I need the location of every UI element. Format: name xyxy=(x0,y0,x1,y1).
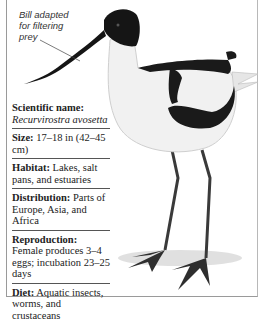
fact-diet: Diet: Aquatic insects, worms, and crusta… xyxy=(12,284,110,323)
fact-box: Scientific name: Recurvirostra avosetta … xyxy=(12,99,110,323)
fact-key: Reproduction: xyxy=(12,234,77,245)
fact-scientific-name: Scientific name: Recurvirostra avosetta xyxy=(12,99,110,129)
bill-callout-label: Bill adapted for filtering prey xyxy=(19,9,79,42)
fact-key: Size: xyxy=(12,132,34,143)
fact-value: Female produces 3–4 eggs; incubation 23–… xyxy=(12,245,110,279)
fact-key: Habitat: xyxy=(12,162,50,173)
fact-distribution: Distribution: Parts of Europe, Asia, and… xyxy=(12,189,110,231)
fact-key: Distribution: xyxy=(12,192,70,203)
fact-reproduction: Reproduction: Female produces 3–4 eggs; … xyxy=(12,231,110,284)
fact-value: Recurvirostra avosetta xyxy=(12,114,110,126)
fact-size: Size: 17–18 in (42–45 cm) xyxy=(12,129,110,159)
fact-key: Diet: xyxy=(12,287,34,298)
fact-habitat: Habitat: Lakes, salt pans, and estuaries xyxy=(12,159,110,189)
fact-key: Scientific name: xyxy=(12,102,84,113)
